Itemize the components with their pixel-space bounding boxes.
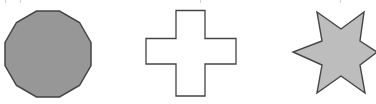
text-descender-fragment [20, 0, 21, 3]
text-descender-fragment [5, 0, 6, 3]
shapes-figure [0, 0, 376, 104]
text-descender-fragment [340, 0, 341, 3]
text-descender-fragment [200, 0, 201, 3]
dodecagon-shape [5, 11, 91, 97]
